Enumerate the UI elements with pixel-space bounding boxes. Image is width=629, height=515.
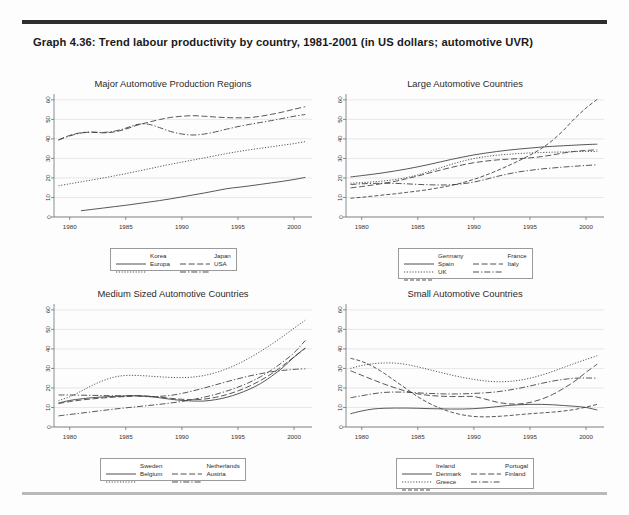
svg-text:2000: 2000 (579, 223, 593, 230)
legend-label: Austria (206, 470, 225, 477)
plot-area-small-countries: 010203040506019801985199019952000 (320, 298, 610, 453)
svg-text:50: 50 (337, 325, 344, 332)
chart-panel-large-countries: Large Automotive Countries 0102030405060… (320, 78, 610, 283)
figure-page: Graph 4.36: Trend labour productivity by… (0, 0, 629, 515)
svg-text:60: 60 (45, 306, 52, 313)
top-divider-rule (22, 20, 607, 24)
series-line-europa (58, 142, 305, 186)
series-line-france (350, 150, 597, 188)
legend-entry-sweden: Sweden (106, 462, 162, 469)
series-line-germany (350, 144, 597, 177)
svg-text:40: 40 (45, 135, 52, 142)
legend-key-icon (180, 261, 210, 267)
legend-entry-korea: Korea (116, 252, 170, 259)
svg-text:50: 50 (45, 115, 52, 122)
legend-key-icon (106, 471, 136, 477)
svg-text:40: 40 (337, 345, 344, 352)
svg-text:1985: 1985 (119, 433, 133, 440)
series-line-italy (350, 165, 597, 185)
legend-label: UK (438, 268, 447, 275)
legend-label: USA (214, 260, 227, 267)
legend-entry-france: France (473, 252, 526, 259)
legend-small-countries: IrelandPortugalDenmarkFinlandGreece (396, 458, 534, 489)
svg-text:10: 10 (45, 403, 52, 410)
svg-text:10: 10 (337, 403, 344, 410)
svg-text:1985: 1985 (119, 223, 133, 230)
legend-entry-ireland: Ireland (402, 462, 461, 469)
svg-text:1995: 1995 (523, 433, 537, 440)
legend-label: Europa (150, 260, 170, 267)
svg-text:30: 30 (337, 154, 344, 161)
legend-entry-belgium: Belgium (106, 470, 162, 477)
legend-entry-japan: Japan (180, 252, 231, 259)
legend-entry-finland: Finland (471, 470, 528, 477)
svg-text:1990: 1990 (175, 223, 189, 230)
legend-entry-europa: Europa (116, 260, 170, 267)
chart-panel-small-countries: Small Automotive Countries 0102030405060… (320, 288, 610, 493)
legend-label: Sweden (140, 462, 162, 469)
legend-medium-countries: SwedenNetherlandsBelgiumAustria (100, 458, 246, 481)
series-line-denmark (350, 356, 597, 382)
plot-area-medium-countries: 010203040506019801985199019952000 (28, 298, 318, 453)
legend-large-countries: GermanyFranceSpainItalyUK (398, 248, 533, 279)
series-line-usa (58, 115, 305, 141)
svg-text:0: 0 (45, 215, 52, 219)
series-line-portugal (350, 364, 597, 404)
legend-entry-portugal: Portugal (471, 462, 528, 469)
svg-text:20: 20 (45, 174, 52, 181)
series-line-belgium (58, 320, 305, 400)
series-line-korea (81, 177, 305, 210)
svg-text:0: 0 (337, 215, 344, 219)
legend-entry-greece: Greece (402, 478, 461, 485)
legend-label: Ireland (436, 462, 455, 469)
svg-text:1995: 1995 (523, 223, 537, 230)
legend-label: Greece (436, 478, 456, 485)
legend-key-icon (471, 463, 501, 469)
svg-text:2000: 2000 (579, 433, 593, 440)
legend-entry-usa: USA (180, 260, 231, 267)
svg-text:60: 60 (45, 96, 52, 103)
bottom-divider-rule (22, 492, 607, 495)
legend-entry-uk: UK (404, 268, 463, 275)
svg-text:1980: 1980 (63, 433, 77, 440)
svg-text:2000: 2000 (287, 433, 301, 440)
svg-text:10: 10 (45, 193, 52, 200)
series-line-japan (58, 107, 305, 140)
svg-text:60: 60 (337, 306, 344, 313)
svg-text:20: 20 (337, 174, 344, 181)
svg-text:1980: 1980 (63, 223, 77, 230)
legend-label: Denmark (436, 470, 461, 477)
svg-text:10: 10 (337, 193, 344, 200)
legend-entry-italy: Italy (473, 260, 526, 267)
svg-text:1990: 1990 (467, 223, 481, 230)
plot-area-major-regions: 010203040506019801985199019952000 (28, 88, 318, 243)
svg-text:30: 30 (45, 364, 52, 371)
figure-caption: Graph 4.36: Trend labour productivity by… (33, 36, 533, 48)
legend-key-icon (471, 471, 501, 477)
legend-key-icon (404, 253, 434, 259)
legend-entry-denmark: Denmark (402, 470, 461, 477)
legend-key-icon (402, 471, 432, 477)
legend-key-icon (172, 471, 202, 477)
legend-key-icon (116, 261, 146, 267)
legend-key-icon (473, 253, 503, 259)
legend-label: Germany (438, 252, 463, 259)
svg-text:1985: 1985 (411, 433, 425, 440)
legend-label: Netherlands (206, 462, 239, 469)
svg-text:30: 30 (45, 154, 52, 161)
legend-key-icon (473, 261, 503, 267)
svg-text:30: 30 (337, 364, 344, 371)
svg-text:1980: 1980 (355, 433, 369, 440)
legend-entry-austria: Austria (172, 470, 239, 477)
svg-text:1985: 1985 (411, 223, 425, 230)
legend-key-icon (404, 261, 434, 267)
legend-entries: SwedenNetherlandsBelgiumAustria (101, 459, 245, 480)
series-line-ireland (350, 404, 597, 413)
legend-key-icon (180, 253, 210, 259)
plot-area-large-countries: 010203040506019801985199019952000 (320, 88, 610, 243)
legend-entries: KoreaJapanEuropaUSA (111, 249, 236, 270)
legend-label: Italy (507, 260, 518, 267)
legend-entries: IrelandPortugalDenmarkFinlandGreece (397, 459, 533, 488)
legend-label: Portugal (505, 462, 528, 469)
legend-key-icon (402, 479, 432, 485)
